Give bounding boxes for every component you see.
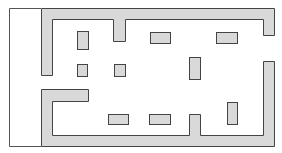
- lower-wall: [42, 62, 275, 147]
- block-7: [109, 115, 129, 125]
- frame-lines: [10, 9, 42, 147]
- block-9: [228, 103, 238, 125]
- block-8: [150, 115, 171, 125]
- blocks: [78, 32, 238, 125]
- block-3: [217, 33, 238, 44]
- block-2: [151, 33, 171, 44]
- block-1: [78, 32, 89, 50]
- block-5: [115, 65, 126, 77]
- floor-plan-diagram: [0, 0, 282, 153]
- walls: [42, 9, 275, 147]
- block-4: [78, 65, 88, 77]
- frame-left-line: [10, 9, 42, 147]
- block-6: [190, 58, 201, 80]
